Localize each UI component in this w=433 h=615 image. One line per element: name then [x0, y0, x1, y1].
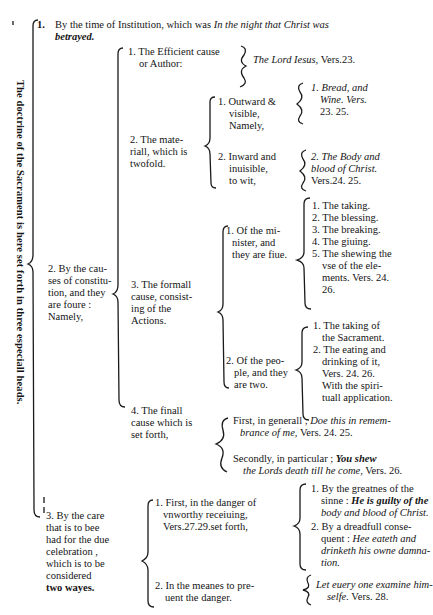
minister-line: they are fiue. — [232, 249, 287, 261]
material-line: twofold. — [130, 158, 165, 170]
final-particular-ref: Vers. 26. — [365, 465, 402, 476]
consequent-italic: tion. — [321, 557, 340, 569]
efficient-answer: The Lord Iesus, Vers.23. — [253, 54, 355, 66]
danger-line: Vers.27.29.set forth, — [163, 521, 248, 533]
people-line: ple, and they — [234, 367, 288, 379]
inward-answer: blood of Christ. — [311, 163, 377, 175]
greatnes-label: sinne : — [321, 495, 349, 506]
prevent-italic: Let euery one examine him- — [316, 579, 433, 591]
greatnes-italic: He is guilty of the — [351, 495, 428, 506]
greatnes-italic: body and blood of Christ. — [321, 507, 429, 519]
inward-line: to wit, — [229, 175, 256, 187]
outward-line: Namely, — [229, 120, 264, 132]
danger-line: vnworthy receiuing, — [163, 509, 248, 521]
final-particular-italic2: the Lords death till he come, — [243, 465, 363, 476]
material-line: riall, which is — [130, 146, 187, 158]
people-item: the Sacrament. — [322, 332, 384, 344]
minister-item: ments. Vers. 24. — [322, 272, 389, 284]
prevent-italic2: selfe. — [327, 591, 349, 602]
outward-line: visible, — [229, 108, 260, 120]
people-item: tuall application. — [322, 392, 393, 404]
head1-label: By the time of Institution, which was — [55, 19, 211, 30]
head2-line: Namely, — [48, 311, 83, 323]
head1-number: 1. — [37, 19, 45, 31]
minister-line: nister, and — [232, 237, 275, 249]
formal-line: Actions. — [131, 315, 166, 327]
people-item: With the spiri- — [322, 380, 383, 392]
head3-line: considered — [46, 570, 91, 582]
minister-item: 1. The taking. — [312, 200, 370, 212]
greatnes-line: 1. By the greatnes of the — [311, 483, 414, 495]
final-general: First, in generall ; Doe this in remem- — [233, 415, 391, 427]
final-particular-label: Secondly, in particular ; — [233, 453, 333, 464]
head2-line: are foure : — [48, 299, 91, 311]
final-general-italic2: brance of me, — [240, 427, 297, 438]
prevent-line: uent the danger. — [165, 592, 232, 604]
final-line: set forth, — [131, 429, 168, 441]
head1-text: By the time of Institution, which was In… — [55, 19, 329, 31]
minister-line: 1. Of the mi- — [226, 225, 280, 237]
consequent-italic: drinketh his owne damna- — [321, 545, 430, 557]
outward-answer: 23. 25. — [320, 106, 349, 118]
minister-item: 26. — [322, 284, 335, 296]
head3-line: had for the due — [46, 534, 109, 546]
danger-line: 1. First, in the danger of — [155, 497, 256, 509]
final-particular: Secondly, in particular ; You shew — [233, 453, 376, 465]
people-line: are two. — [234, 379, 268, 391]
head3-line: 3. By the care — [46, 510, 104, 522]
final-line: 4. The finall — [131, 405, 182, 417]
minister-item: 4. The giuing. — [312, 236, 371, 248]
formal-line: cause, consist- — [131, 291, 192, 303]
head3-line: celebration , — [46, 546, 98, 558]
greatnes-cont: sinne : He is guilty of the — [321, 495, 428, 507]
prevent-ref: Vers. 28. — [351, 591, 388, 602]
head2-line: tion, and they — [48, 287, 105, 299]
consequent-italic: Hee eateth and — [353, 533, 417, 544]
outward-line: 1. Outward & — [218, 96, 276, 108]
inward-line: inuisible, — [229, 163, 268, 175]
consequent-cont: quent : Hee eateth and — [321, 533, 416, 545]
final-general-ref: Vers. 24. 25. — [300, 427, 353, 438]
efficient-line: or Author: — [139, 58, 182, 70]
inward-line: 2. Inward and — [218, 151, 276, 163]
outward-answer: 1. Bread, and — [311, 82, 368, 94]
head2-line: ses of constitu- — [48, 275, 112, 287]
minister-item: vse of the ele- — [322, 260, 381, 272]
minister-item: 2. The blessing. — [312, 212, 378, 224]
heads-bracket — [28, 20, 40, 517]
people-line: 2. Of the peo- — [226, 355, 284, 367]
final-general-cont: brance of me, Vers. 24. 25. — [240, 427, 353, 439]
final-particular-cont: the Lords death till he come, Vers. 26. — [243, 465, 402, 477]
final-general-label: First, in generall ; — [233, 415, 308, 426]
people-item: 2. The eating and — [313, 344, 386, 356]
head3-line: that is to bee — [46, 522, 99, 534]
minister-item: 5. The shewing the — [312, 248, 392, 260]
prevent-cont: selfe. Vers. 28. — [327, 591, 388, 603]
outward-answer: Wine. Vers. — [320, 94, 367, 106]
formal-line: 3. The formall — [131, 279, 191, 291]
consequent-line: 2. By a dreadfull conse- — [311, 521, 412, 533]
final-line: cause which is — [131, 417, 192, 429]
minister-item: 3. The breaking. — [312, 224, 381, 236]
head2-line: 2. By the cau- — [48, 263, 107, 275]
efficient-answer-italic: The Lord Iesus, — [253, 54, 318, 65]
final-particular-italic: You shew — [336, 453, 377, 464]
head3-line: which is to be — [46, 558, 105, 570]
efficient-ref: Vers.23. — [321, 54, 355, 65]
inward-answer: 2. The Body and — [311, 151, 380, 163]
people-item: drinking of it, — [322, 356, 380, 368]
consequent-label: quent : — [321, 533, 350, 544]
inward-answer: Vers.24. 25. — [311, 175, 361, 187]
people-item: Vers. 24. 26. — [322, 368, 375, 380]
formal-line: ing of the — [131, 303, 171, 315]
people-item: 1. The taking of — [313, 320, 380, 332]
final-general-italic: Doe this in remem- — [310, 415, 390, 426]
head1-italic-continued: betrayed. — [55, 31, 94, 43]
prevent-line: 2. In the meanes to pre- — [155, 580, 254, 592]
head3-line: two wayes. — [46, 582, 94, 594]
material-line: 2. The mate- — [130, 134, 183, 146]
head1-italic: In the night that Christ was — [214, 19, 329, 30]
efficient-line: 1. The Efficient cause — [128, 46, 220, 58]
